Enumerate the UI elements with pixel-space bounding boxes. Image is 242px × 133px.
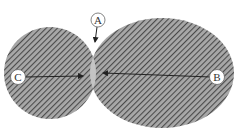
label-b-text: B bbox=[213, 71, 220, 83]
label-a-text: A bbox=[94, 14, 102, 26]
arrow-a bbox=[95, 27, 97, 42]
label-c: C bbox=[11, 70, 26, 85]
label-c-text: C bbox=[14, 71, 21, 83]
label-a: A bbox=[91, 13, 105, 27]
diagram-canvas: A B C bbox=[0, 0, 242, 133]
venn-diagram: A B C bbox=[0, 0, 242, 133]
label-b: B bbox=[210, 70, 225, 85]
